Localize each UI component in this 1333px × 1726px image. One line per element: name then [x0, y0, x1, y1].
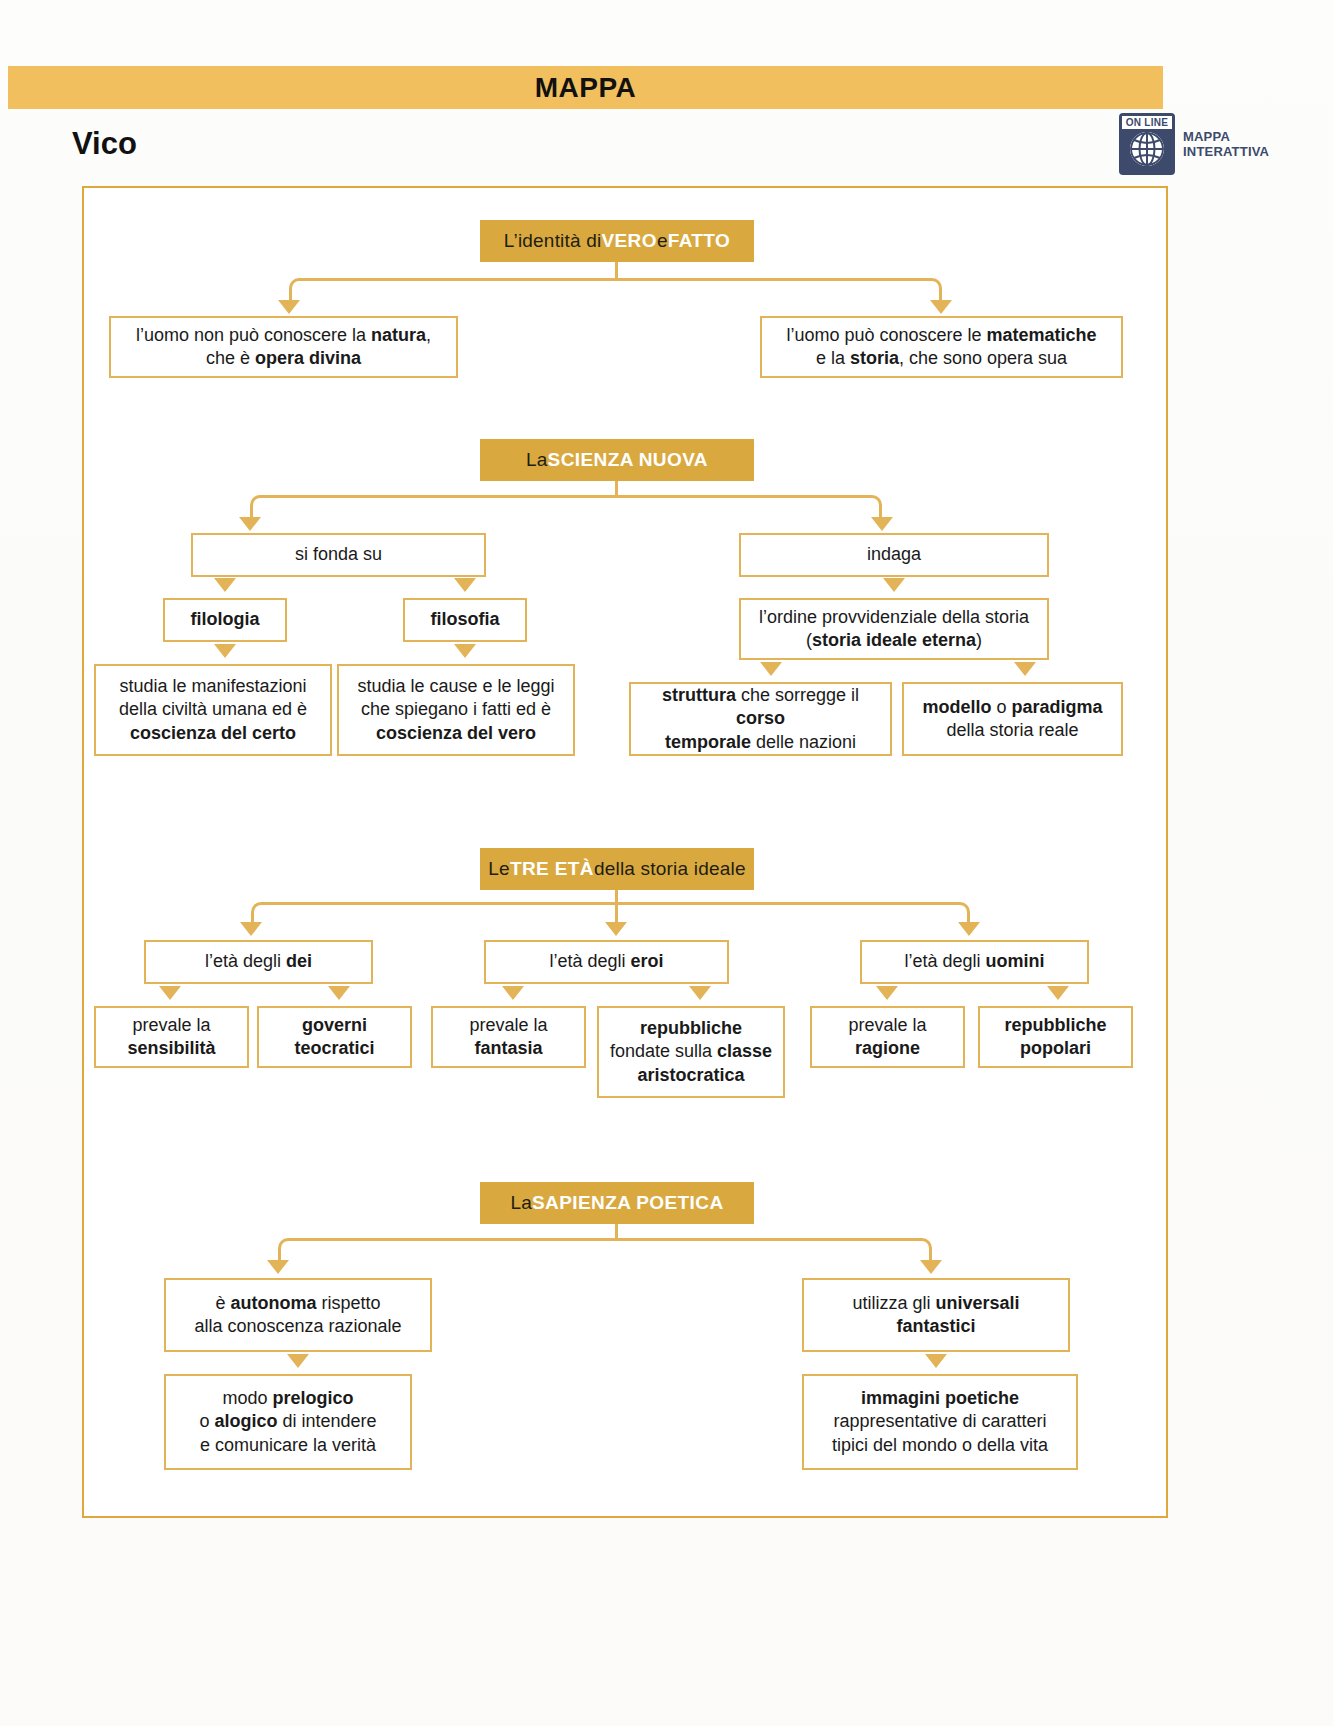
connector-elbow-right-s2: [614, 495, 882, 521]
arrow-filologia: [214, 578, 236, 592]
node-eta-eroi-text: l’età degli eroi: [549, 950, 663, 973]
node-ragione[interactable]: prevale laragione: [810, 1006, 965, 1068]
connector-elbow-right-s1: [614, 278, 942, 304]
badge-caption-line1: MAPPA: [1183, 129, 1269, 144]
banner-vero-fatto-pre: L’identità di: [504, 230, 602, 252]
arrow-modello: [1014, 662, 1036, 676]
arrow-coscienza-certo: [214, 644, 236, 658]
node-fantasia[interactable]: prevale lafantasia: [431, 1006, 586, 1068]
node-sensibilita[interactable]: prevale lasensibilità: [94, 1006, 249, 1068]
node-fantasia-text: prevale lafantasia: [469, 1014, 547, 1060]
banner-vero-fatto-hl2: FATTO: [668, 230, 731, 252]
node-filosofia[interactable]: filosofia: [403, 598, 527, 642]
node-coscienza-certo[interactable]: studia le manifestazionidella civiltà um…: [94, 664, 332, 756]
node-natura-text: l’uomo non può conoscere la natura,che è…: [136, 324, 431, 370]
arrow-s1-right: [930, 300, 952, 314]
node-eta-dei-text: l’età degli dei: [205, 950, 312, 973]
badge-caption-line2: INTERATTIVA: [1183, 144, 1269, 159]
banner-sapienza-poetica[interactable]: La SAPIENZA POETICA: [480, 1182, 754, 1224]
node-prelogico[interactable]: modo prelogicoo alogico di intenderee co…: [164, 1374, 412, 1470]
arrow-ordine-provvidenziale: [883, 578, 905, 592]
arrow-eta-eroi: [605, 922, 627, 936]
node-eta-eroi[interactable]: l’età degli eroi: [484, 940, 729, 984]
arrow-sensibilita: [159, 986, 181, 1000]
node-filosofia-text: filosofia: [430, 608, 499, 631]
diagram-frame: L’identità di VERO e FATTO l’uomo non pu…: [82, 186, 1168, 1518]
node-coscienza-vero-text: studia le cause e le leggiche spiegano i…: [357, 675, 554, 744]
node-eta-uomini-text: l’età degli uomini: [904, 950, 1044, 973]
node-ordine-provvidenziale-text: l’ordine provvidenziale della storia(sto…: [759, 606, 1029, 652]
node-governi-teocratici[interactable]: governiteocratici: [257, 1006, 412, 1068]
arrow-governi-teocratici: [328, 986, 350, 1000]
node-indaga-text: indaga: [867, 543, 921, 566]
arrow-s2-right: [871, 517, 893, 531]
banner-scienza-nuova[interactable]: La SCIENZA NUOVA: [480, 439, 754, 481]
banner-tre-eta-hl1: TRE ETÀ: [510, 858, 594, 880]
arrow-repubbliche-popolari: [1047, 986, 1069, 1000]
node-autonoma-text: è autonoma rispettoalla conoscenza razio…: [194, 1292, 401, 1338]
node-si-fonda-su-text: si fonda su: [295, 543, 382, 566]
arrow-universali-fantastici: [920, 1260, 942, 1274]
arrow-ragione: [876, 986, 898, 1000]
node-si-fonda-su[interactable]: si fonda su: [191, 533, 486, 577]
badge-caption: MAPPA INTERATTIVA: [1183, 129, 1269, 159]
banner-scienza-nuova-hl1: SCIENZA NUOVA: [548, 449, 708, 471]
node-autonoma[interactable]: è autonoma rispettoalla conoscenza razio…: [164, 1278, 432, 1352]
banner-tre-eta-pre: Le: [488, 858, 510, 880]
banner-tre-eta-mid: della storia ideale: [594, 858, 746, 880]
arrow-prelogico: [287, 1354, 309, 1368]
node-repubbliche-aristocratiche[interactable]: repubblichefondate sulla classearistocra…: [597, 1006, 785, 1098]
node-immagini-poetiche-text: immagini poeticherappresentative di cara…: [832, 1387, 1048, 1456]
arrow-autonoma: [267, 1260, 289, 1274]
arrow-coscienza-vero: [454, 644, 476, 658]
arrow-struttura: [760, 662, 782, 676]
arrow-eta-dei: [240, 922, 262, 936]
node-universali-fantastici[interactable]: utilizza gli universalifantastici: [802, 1278, 1070, 1352]
node-ragione-text: prevale laragione: [848, 1014, 926, 1060]
connector-elbow-left-s1: [289, 278, 617, 304]
node-matematiche-text: l’uomo può conoscere le matematichee la …: [786, 324, 1096, 370]
badge-online-label: ON LINE: [1122, 116, 1172, 129]
arrow-fantasia: [502, 986, 524, 1000]
node-filologia[interactable]: filologia: [163, 598, 287, 642]
banner-vero-fatto-hl1: VERO: [601, 230, 656, 252]
node-indaga[interactable]: indaga: [739, 533, 1049, 577]
mappa-header-bar: MAPPA: [8, 66, 1163, 109]
node-struttura[interactable]: struttura che sorregge il corsotemporale…: [629, 682, 892, 756]
connector-elbow-right-s3: [614, 902, 970, 926]
node-governi-teocratici-text: governiteocratici: [294, 1014, 374, 1060]
online-interactive-map-badge[interactable]: ON LINE MAPPA INTERATTIVA: [1119, 113, 1175, 175]
banner-sapienza-poetica-pre: La: [510, 1192, 532, 1214]
node-matematiche[interactable]: l’uomo può conoscere le matematichee la …: [760, 316, 1123, 378]
arrow-s1-left: [278, 300, 300, 314]
banner-scienza-nuova-pre: La: [526, 449, 548, 471]
connector-elbow-right-s4: [614, 1238, 932, 1264]
connector-elbow-left-s4: [278, 1238, 617, 1264]
banner-vero-fatto-mid: e: [657, 230, 668, 252]
node-universali-fantastici-text: utilizza gli universalifantastici: [852, 1292, 1019, 1338]
node-coscienza-vero[interactable]: studia le cause e le leggiche spiegano i…: [337, 664, 575, 756]
banner-vero-fatto[interactable]: L’identità di VERO e FATTO: [480, 220, 754, 262]
node-repubbliche-popolari[interactable]: repubblichepopolari: [978, 1006, 1133, 1068]
node-modello[interactable]: modello o paradigmadella storia reale: [902, 682, 1123, 756]
connector-elbow-left-s3: [251, 902, 617, 926]
page-title: Vico: [72, 126, 137, 162]
node-eta-dei[interactable]: l’età degli dei: [144, 940, 373, 984]
node-repubbliche-popolari-text: repubblichepopolari: [1004, 1014, 1106, 1060]
arrow-eta-uomini: [958, 922, 980, 936]
node-repubbliche-aristocratiche-text: repubblichefondate sulla classearistocra…: [610, 1017, 772, 1086]
connector-elbow-left-s2: [250, 495, 617, 521]
node-prelogico-text: modo prelogicoo alogico di intenderee co…: [199, 1387, 376, 1456]
banner-tre-eta[interactable]: Le TRE ETÀ della storia ideale: [480, 848, 754, 890]
node-ordine-provvidenziale[interactable]: l’ordine provvidenziale della storia(sto…: [739, 598, 1049, 660]
node-modello-text: modello o paradigmadella storia reale: [922, 696, 1102, 742]
node-filologia-text: filologia: [191, 608, 260, 631]
arrow-filosofia: [454, 578, 476, 592]
node-struttura-text: struttura che sorregge il corsotemporale…: [639, 684, 882, 753]
globe-icon: [1130, 132, 1164, 166]
node-immagini-poetiche[interactable]: immagini poeticherappresentative di cara…: [802, 1374, 1078, 1470]
banner-sapienza-poetica-hl1: SAPIENZA POETICA: [532, 1192, 724, 1214]
arrow-immagini-poetiche: [925, 1354, 947, 1368]
node-eta-uomini[interactable]: l’età degli uomini: [860, 940, 1089, 984]
node-natura[interactable]: l’uomo non può conoscere la natura,che è…: [109, 316, 458, 378]
